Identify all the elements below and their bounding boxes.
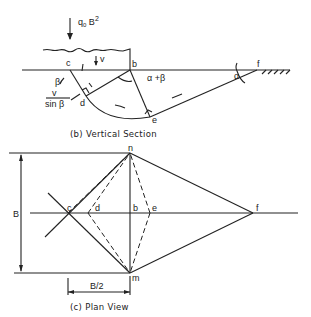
line-c-d: [70, 70, 86, 96]
vertical-section: q0 B2 v: [22, 15, 290, 139]
point-label-f-plan: f: [256, 203, 259, 213]
point-label-b-plan: b: [133, 203, 138, 213]
line-e-f: [150, 70, 257, 117]
spiral-flow-arrow-icon: [115, 105, 125, 108]
point-label-d: d: [80, 98, 85, 108]
velocity-label: v: [100, 54, 105, 64]
dim-half-arrow-right-icon: [124, 290, 130, 294]
line-n-f: [130, 153, 253, 213]
velocity-ratio-numerator: v: [52, 88, 57, 98]
dashed-e-m: [130, 213, 150, 273]
point-label-n: n: [128, 143, 133, 153]
angle-beta-label: β: [55, 77, 60, 87]
angle-arc-alpha-beta: [118, 77, 132, 82]
ef-flow-arrow-icon: [172, 94, 182, 98]
footing-outline: [43, 49, 130, 71]
point-label-c: c: [66, 58, 71, 68]
failure-mechanism-diagram: q0 B2 v: [0, 0, 311, 317]
velocity-arrow-head-icon: [94, 61, 98, 66]
velocity-ratio-denominator: sin β: [45, 99, 64, 109]
line-m-f: [130, 213, 253, 273]
velocity-ratio-leader: [71, 94, 80, 100]
dimension-B-label: B: [13, 209, 19, 219]
load-label: q0 B2: [78, 15, 99, 28]
dim-arrow-bottom-icon: [19, 265, 23, 272]
dimension-half-B-label: B/2: [90, 281, 104, 291]
plan-view: B B/2 n m c d b e f (c) Plan View: [9, 143, 298, 312]
ground-hatching: [262, 70, 290, 74]
vertical-section-caption: (b) Vertical Section: [70, 129, 157, 139]
angle-alpha-label: α: [234, 71, 239, 81]
dim-half-arrow-left-icon: [68, 290, 74, 294]
point-label-b: b: [132, 59, 137, 69]
dashed-d-m: [88, 213, 130, 273]
point-label-f: f: [257, 59, 260, 69]
point-label-e: e: [152, 115, 157, 125]
line-b-d: [86, 70, 130, 96]
point-label-c-plan: c: [67, 203, 72, 213]
dim-arrow-top-icon: [19, 154, 23, 161]
angle-alpha-beta-label: α +β: [147, 73, 165, 83]
angle-arc-beta: [60, 78, 64, 84]
point-label-e-plan: e: [152, 203, 157, 213]
plan-view-caption: (c) Plan View: [70, 302, 129, 312]
line-c-m: [48, 193, 130, 273]
point-label-d-plan: d: [95, 203, 100, 213]
spiral-d-e: [86, 96, 150, 119]
load-arrow-head-icon: [67, 33, 73, 40]
point-label-m: m: [132, 273, 140, 283]
arrow-d-region: [89, 83, 92, 87]
